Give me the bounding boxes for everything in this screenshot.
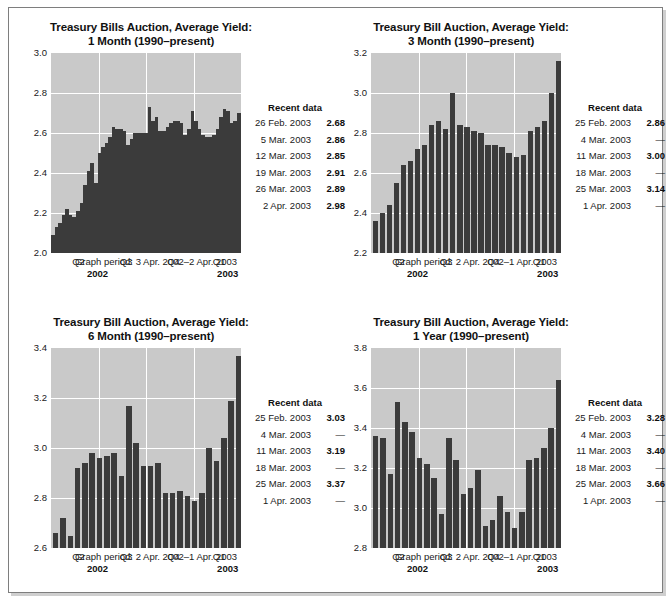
- chart-title-line2: 3 Month (1990–present): [345, 34, 597, 48]
- chart-title-line1: Treasury Bill Auction, Average Yield:: [373, 21, 569, 33]
- chart-panel-one-year: Treasury Bill Auction, Average Yield:1 Y…: [343, 313, 665, 598]
- graph-period-three-month: Graph period: 2 Apr. 2002–1 Apr. 2003: [371, 256, 581, 267]
- bar: [75, 468, 81, 548]
- bar: [126, 406, 132, 549]
- recent-data-date: 25 Mar. 2003: [567, 181, 639, 198]
- bar: [53, 533, 59, 548]
- recent-data-value: 2.98: [319, 198, 345, 215]
- recent-data-date: 4 Mar. 2003: [247, 427, 319, 444]
- bar: [133, 443, 139, 548]
- chart-title-one-month: Treasury Bills Auction, Average Yield:1 …: [25, 18, 277, 48]
- bar: [443, 129, 448, 253]
- x-axis-year-right: 2003: [217, 268, 238, 279]
- bar: [549, 93, 554, 253]
- bar: [373, 221, 378, 253]
- recent-data-value: —: [639, 493, 665, 510]
- bar: [373, 436, 379, 548]
- bar: [429, 125, 434, 253]
- bar: [541, 448, 547, 548]
- recent-data-row: 11 Mar. 20033.40: [567, 443, 665, 460]
- recent-data-date: 25 Feb. 2003: [567, 115, 639, 132]
- recent-data-row: 18 Mar. 2003—: [247, 460, 345, 477]
- bar: [548, 428, 554, 548]
- bar-series-one-month: [51, 53, 241, 253]
- x-axis-year-left: 2002: [87, 268, 108, 279]
- graph-period-one-month: Graph period: 3 Apr. 2002–2 Apr. 2003: [51, 256, 261, 267]
- bar: [408, 161, 413, 253]
- bar: [556, 380, 561, 548]
- bar: [206, 448, 212, 548]
- bar: [436, 121, 441, 253]
- y-tick-label: 3.0: [34, 48, 47, 58]
- bar: [163, 493, 169, 548]
- recent-data-value: —: [639, 198, 665, 215]
- y-tick-label: 2.6: [34, 543, 47, 553]
- recent-data-value: 2.86: [639, 115, 665, 132]
- x-axis-year-right: 2003: [217, 563, 238, 574]
- recent-data-row: 25 Feb. 20033.28: [567, 410, 665, 427]
- recent-data-date: 26 Feb. 2003: [247, 115, 319, 132]
- bar: [528, 131, 533, 253]
- bar: [526, 460, 532, 548]
- recent-data-date: 25 Feb. 2003: [247, 410, 319, 427]
- recent-data-row: 12 Mar. 20032.85: [247, 148, 345, 165]
- bar: [380, 213, 385, 253]
- y-tick-label: 3.6: [354, 383, 367, 393]
- bar: [155, 463, 161, 548]
- bar: [89, 453, 95, 548]
- graph-period-six-month: Graph period: 2 Apr. 2002–1 Apr. 2003: [51, 551, 261, 562]
- bar: [111, 453, 117, 548]
- recent-data-date: 1 Apr. 2003: [247, 493, 319, 510]
- chart-title-three-month: Treasury Bill Auction, Average Yield:3 M…: [345, 18, 597, 48]
- recent-data-row: 1 Apr. 2003—: [247, 493, 345, 510]
- chart-title-line1: Treasury Bill Auction, Average Yield:: [373, 316, 569, 328]
- recent-data-row: 18 Mar. 2003—: [567, 165, 665, 182]
- chart-title-line2: 6 Month (1990–present): [25, 329, 277, 343]
- bar: [68, 536, 74, 549]
- recent-data-row: 18 Mar. 2003—: [567, 460, 665, 477]
- y-tick-label: 3.0: [34, 443, 47, 453]
- recent-data-row: 4 Mar. 2003—: [567, 427, 665, 444]
- y-tick-label: 2.8: [354, 128, 367, 138]
- bar: [478, 133, 483, 253]
- plot-area-one-year: [371, 348, 561, 548]
- bar: [82, 463, 88, 548]
- bar: [236, 356, 241, 549]
- y-tick-label: 2.2: [34, 208, 47, 218]
- y-tick-label: 3.4: [34, 343, 47, 353]
- recent-data-value: 3.03: [319, 410, 345, 427]
- recent-data-date: 4 Mar. 2003: [567, 427, 639, 444]
- recent-data-date: 25 Mar. 2003: [567, 476, 639, 493]
- bar: [221, 438, 227, 548]
- x-axis-year-left: 2002: [407, 563, 428, 574]
- recent-data-heading: Recent data: [247, 102, 345, 113]
- bar: [506, 153, 511, 253]
- recent-data-row: 11 Mar. 20033.00: [567, 148, 665, 165]
- recent-data-row: 25 Mar. 20033.14: [567, 181, 665, 198]
- recent-data-value: 2.91: [319, 165, 345, 182]
- recent-data-value: 2.86: [319, 132, 345, 149]
- recent-data-row: 26 Mar. 20032.89: [247, 181, 345, 198]
- recent-data-date: 18 Mar. 2003: [567, 165, 639, 182]
- recent-data-table-three-month: Recent data25 Feb. 20032.864 Mar. 2003—1…: [567, 102, 665, 214]
- bar: [401, 165, 406, 253]
- bar-series-three-month: [371, 53, 561, 253]
- recent-data-value: 3.19: [319, 443, 345, 460]
- bar: [214, 461, 220, 549]
- bar: [417, 458, 423, 548]
- bar: [464, 127, 469, 253]
- recent-data-date: 12 Mar. 2003: [247, 148, 319, 165]
- x-axis-year-left: 2002: [87, 563, 108, 574]
- bar: [409, 432, 415, 548]
- chart-panel-three-month: Treasury Bill Auction, Average Yield:3 M…: [343, 18, 665, 303]
- recent-data-value: —: [639, 427, 665, 444]
- y-tick-label: 3.0: [354, 503, 367, 513]
- recent-data-date: 4 Mar. 2003: [567, 132, 639, 149]
- figure-frame: Treasury Bills Auction, Average Yield:1 …: [8, 7, 663, 593]
- chart-panel-one-month: Treasury Bills Auction, Average Yield:1 …: [23, 18, 345, 303]
- bar: [556, 61, 561, 253]
- recent-data-value: —: [319, 427, 345, 444]
- recent-data-value: —: [319, 460, 345, 477]
- recent-data-heading: Recent data: [567, 102, 665, 113]
- bar: [512, 528, 518, 548]
